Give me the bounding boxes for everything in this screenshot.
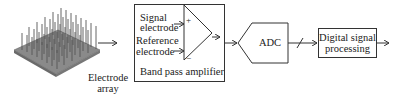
- adc-label: ADC: [252, 37, 288, 48]
- electrode-array-label-line2: array: [80, 83, 136, 94]
- minus-input-sign: −: [186, 53, 191, 64]
- dsp-label-line2: processing: [319, 43, 376, 54]
- amplifier-title: Band pass amplifier: [140, 66, 224, 77]
- electrode-array-label-line1: Electrode: [80, 72, 136, 83]
- reference-electrode-label: Reference: [136, 35, 179, 46]
- signal-electrode-label-2: electrode: [140, 22, 178, 33]
- electrode-array-label: Electrode array: [80, 72, 136, 94]
- plus-input-sign: +: [186, 15, 191, 26]
- digital-signal-processing-block: Digital signal processing: [318, 28, 377, 58]
- signal-chain-diagram: Signal electrode Reference electrode + −…: [0, 0, 401, 94]
- electrode-array-icon: [14, 8, 100, 77]
- dsp-label-line1: Digital signal: [319, 32, 376, 43]
- reference-electrode-label-2: electrode: [136, 46, 174, 57]
